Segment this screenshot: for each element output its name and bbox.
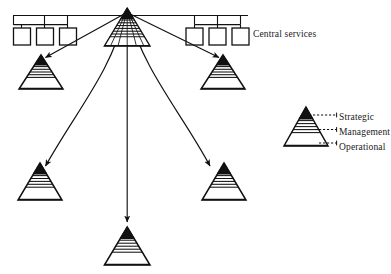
legend-group xyxy=(284,107,337,146)
pyramid-layer-strategic xyxy=(217,163,231,174)
central-service-box-1[interactable] xyxy=(14,28,31,45)
legend-layer-strategic xyxy=(299,107,313,119)
legend-label-management: Management xyxy=(339,128,390,138)
diagram-canvas xyxy=(0,0,391,274)
pyramid-layer-strategic xyxy=(33,163,47,174)
legend-label-strategic: Strategic xyxy=(339,113,374,123)
central-service-box-5[interactable] xyxy=(209,28,226,45)
organisation-diagram: Central services Strategic Management Op… xyxy=(0,0,391,274)
business-unit-pyramid-bottom[interactable] xyxy=(104,227,150,265)
pyramid-layer-strategic xyxy=(217,55,230,65)
pyramid-layer-strategic xyxy=(35,55,48,65)
central-service-box-2[interactable] xyxy=(37,28,54,45)
central-service-box-3[interactable] xyxy=(60,28,77,45)
business-unit-pyramid-top-left[interactable] xyxy=(19,55,63,89)
business-unit-pyramid-mid-left[interactable] xyxy=(18,163,62,200)
business-unit-pyramid-top-right[interactable] xyxy=(201,55,245,89)
head-office-pyramid[interactable] xyxy=(104,8,150,46)
central-service-box-6[interactable] xyxy=(232,28,249,45)
legend-label-operational: Operational xyxy=(339,143,386,153)
pyramid-layer-strategic xyxy=(120,227,134,239)
central-services-label: Central services xyxy=(253,30,316,40)
legend-pyramid xyxy=(284,107,328,146)
business-unit-pyramid-mid-right[interactable] xyxy=(202,163,246,200)
